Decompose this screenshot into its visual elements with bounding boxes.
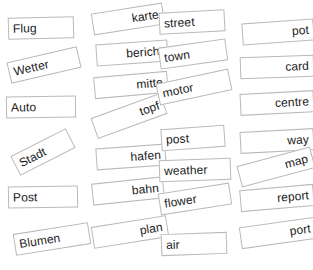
word-card-label: weather [164,164,208,178]
word-card-hafen[interactable]: hafen [95,144,166,171]
word-card-label: centre [275,95,310,109]
word-card-label: Flug [13,22,37,35]
word-card-karte[interactable]: karte [91,3,166,36]
word-card-label: motor [161,81,194,99]
word-card-stadt[interactable]: Stadt [10,128,75,176]
word-card-weather[interactable]: weather [159,158,232,182]
word-card-label: Auto [11,101,36,113]
word-card-wetter[interactable]: Wetter [6,46,81,84]
word-card-town[interactable]: town [158,38,228,69]
word-card-label: street [164,16,195,30]
word-card-port[interactable]: port [239,217,313,249]
word-card-label: Wetter [12,58,50,78]
word-card-topf[interactable]: topf [90,93,167,139]
word-card-post_en[interactable]: post [160,125,225,151]
word-card-label: bahn [131,182,159,197]
word-card-label: Blumen [18,232,61,250]
word-card-label: hafen [130,149,161,163]
word-card-post_de[interactable]: Post [8,185,78,208]
word-card-card[interactable]: card [240,55,313,80]
word-card-report[interactable]: report [239,184,313,212]
word-card-plan[interactable]: plan [91,215,170,249]
word-card-air[interactable]: air [161,232,228,256]
word-card-label: port [289,222,312,237]
word-card-auto[interactable]: Auto [6,95,76,118]
word-card-label: card [285,60,309,73]
word-card-label: map [283,153,309,171]
word-card-label: karte [131,8,160,24]
word-card-label: Post [13,191,38,203]
word-card-label: topf [138,99,161,117]
word-card-label: flower [163,193,197,210]
word-card-label: air [166,239,180,251]
word-card-label: Stadt [17,146,48,170]
word-card-flug[interactable]: Flug [8,16,75,40]
word-card-board: FlugWetterAutoStadtPostBlumenkarteberich… [0,0,313,270]
word-card-label: post [166,132,190,146]
word-card-label: town [163,49,190,64]
word-card-pot[interactable]: pot [241,19,313,46]
word-card-flower[interactable]: flower [158,183,233,216]
word-card-street[interactable]: street [158,9,225,34]
word-card-centre[interactable]: centre [239,90,313,116]
word-card-bahn[interactable]: bahn [91,176,165,205]
word-card-label: report [277,189,310,204]
word-card-label: pot [292,24,310,37]
word-card-label: way [287,133,309,146]
word-card-blumen[interactable]: Blumen [13,222,92,256]
